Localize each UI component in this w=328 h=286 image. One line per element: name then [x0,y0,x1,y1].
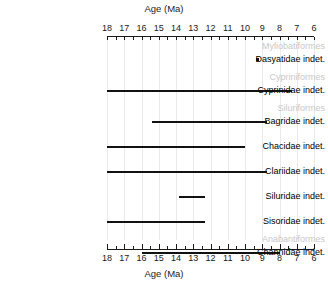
axis-tick-minor [133,246,134,249]
gridline [159,40,160,240]
range-bar [107,146,245,148]
axis-tick-major [124,244,125,249]
axis-tick-minor [202,246,203,249]
axis-tick-minor [116,246,117,249]
axis-tick-minor [219,246,220,249]
range-bar [107,221,205,223]
gridline [142,40,143,240]
family-label: Dasyatidae indet. [221,54,328,64]
stratigraphic-range-chart: Age (Ma) 1817161514131211109876 18171615… [0,0,328,286]
family-label: Sisoridae indet. [221,216,328,226]
axis-tick-label: 6 [304,23,324,33]
axis-tick-minor [150,246,151,249]
tick-labels-top: 1817161514131211109876 [107,23,314,34]
range-bar [107,171,267,173]
axis-tick-major [193,244,194,249]
range-bar [152,121,268,123]
axis-tick-major [211,244,212,249]
axis-tick-minor [167,246,168,249]
gridline [297,40,298,240]
axis-tick-major [159,244,160,249]
plot-area [107,40,314,240]
axis-tick-major [142,244,143,249]
gridline [211,40,212,240]
gridline [314,40,315,240]
gridline [107,40,108,240]
range-bar [179,196,205,198]
axis-tick-minor [185,246,186,249]
gridline [262,40,263,240]
gridline [193,40,194,240]
axis-top [107,36,314,37]
gridline [176,40,177,240]
order-label: Myliobatiformes [221,41,328,51]
gridline [124,40,125,240]
axis-tick-major [176,244,177,249]
gridline [228,40,229,240]
axis-title-top: Age (Ma) [0,3,328,14]
order-label: Anabantiformes [221,234,328,244]
occurrence-point [256,58,259,61]
family-label: Siluridae indet. [221,191,328,201]
range-bar [142,252,280,254]
gridline [280,40,281,240]
order-label: Cypriniformes [221,72,328,82]
gridline [245,40,246,240]
range-bar [107,90,292,92]
order-label: Siluriformes [221,103,328,113]
axis-tick-major [107,244,108,249]
axis-title-bottom: Age (Ma) [0,268,328,279]
